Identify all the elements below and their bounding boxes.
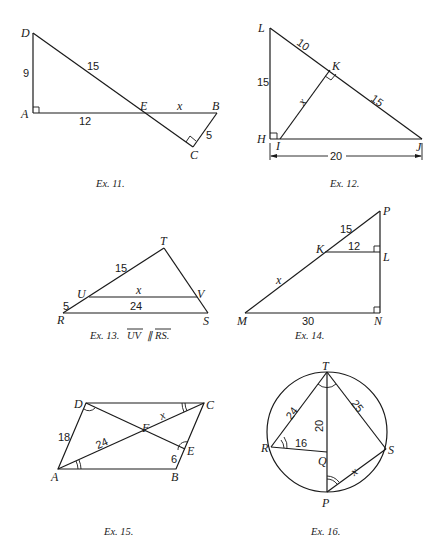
angle-arc-A-outer (76, 461, 78, 469)
arrow-right-icon (415, 154, 422, 158)
point-C: C (206, 398, 215, 412)
figure-ex15: D C F E A B 18 24 x 6 Ex. 15. (50, 397, 215, 537)
point-I: I (275, 139, 281, 153)
point-P: P (382, 204, 391, 218)
caption-ex12: Ex. 12. (329, 178, 359, 189)
point-E: E (139, 99, 148, 113)
length-EB: 6 (171, 453, 177, 465)
length-RQ: 16 (295, 437, 307, 449)
angle-arc-P-outer (327, 479, 337, 484)
length-UR: 5 (63, 300, 69, 312)
angle-arc-R-inner (284, 437, 287, 449)
figure-ex11: D A E B C 9 15 12 x 5 Ex. 11. (20, 26, 220, 189)
point-J: J (416, 140, 422, 154)
length-KL: 12 (348, 240, 360, 252)
point-K: K (331, 59, 341, 73)
point-C: C (190, 148, 199, 162)
length-AF: 24 (94, 435, 110, 451)
caption-ex15: Ex. 15. (103, 526, 133, 537)
point-L: L (382, 250, 390, 264)
point-H: H (256, 132, 267, 146)
point-S: S (203, 314, 209, 328)
point-B: B (212, 99, 220, 113)
length-TQ: 20 (313, 420, 325, 432)
caption-ex16: Ex. 16. (310, 526, 340, 537)
point-F: F (141, 421, 150, 435)
length-DA: 9 (23, 67, 29, 79)
point-K: K (315, 242, 325, 256)
length-HJ: 20 (330, 150, 342, 162)
point-R: R (56, 313, 65, 327)
point-S: S (388, 443, 394, 457)
point-A: A (50, 470, 59, 484)
point-B: B (171, 470, 179, 484)
length-RS: 24 (130, 300, 142, 312)
arrow-left-icon (270, 154, 277, 158)
length-MK: x (275, 273, 282, 287)
angle-arc-D (84, 408, 95, 411)
point-Q: Q (318, 454, 327, 468)
caption-ex14: Ex. 14. (294, 330, 324, 341)
point-R: R (260, 441, 269, 455)
figure-ex13: T U V R S 15 5 x 24 Ex. 13. UV ∥ RS. (56, 234, 209, 342)
length-PK: 15 (340, 223, 352, 235)
point-E: E (186, 444, 195, 458)
point-U: U (77, 287, 87, 301)
point-T: T (322, 359, 330, 373)
right-angle-marker (186, 136, 196, 142)
right-angle-marker (33, 107, 39, 113)
length-BC: 5 (206, 129, 212, 141)
length-PS: x (347, 464, 361, 479)
caption-segment-rs: RS. (154, 330, 169, 341)
point-T: T (160, 234, 168, 248)
point-V: V (197, 287, 206, 301)
length-RT: 24 (283, 405, 300, 422)
caption-segment-uv: UV (127, 330, 143, 341)
point-D: D (73, 397, 83, 411)
point-N: N (373, 314, 383, 328)
point-P: P (321, 496, 330, 510)
figure-ex14: P K L M N 15 12 x 30 Ex. 14. (236, 204, 391, 341)
point-D: D (20, 26, 30, 40)
length-LH: 15 (257, 76, 269, 88)
angle-arc-C-inner (185, 403, 187, 411)
point-L: L (257, 21, 265, 35)
length-AE: 12 (79, 115, 91, 127)
length-LK: 10 (295, 36, 312, 53)
length-UV: x (135, 283, 142, 297)
caption-ex13: Ex. 13. UV ∥ RS. (89, 329, 171, 342)
right-angle-marker (374, 246, 380, 252)
length-AD: 18 (58, 431, 70, 443)
angle-arc-R-outer (281, 440, 284, 448)
angle-arc-A-inner (79, 460, 81, 469)
figure-ex16: T R S Q P 24 25 20 16 x Ex. 16. (260, 359, 394, 537)
length-TU: 15 (115, 262, 127, 274)
length-EB: x (176, 99, 183, 113)
figure-ex12: L K H I J 15 10 15 x 20 Ex. 12. (256, 21, 422, 189)
caption-parallel: ∥ (147, 330, 153, 342)
svg-text:Ex. 13.: Ex. 13. (89, 330, 119, 341)
length-KJ: 15 (369, 92, 386, 109)
length-MN: 30 (302, 315, 314, 327)
length-TS: 25 (349, 397, 366, 414)
length-FC: x (156, 407, 168, 423)
caption-ex11: Ex. 11. (95, 178, 125, 189)
geometry-exercises: D A E B C 9 15 12 x 5 Ex. 11. L K H I J … (0, 0, 443, 541)
point-M: M (236, 314, 248, 328)
angle-arc-C-outer (182, 403, 184, 412)
point-A: A (20, 107, 29, 121)
length-DE: 15 (87, 60, 99, 72)
right-angle-marker (374, 307, 380, 313)
